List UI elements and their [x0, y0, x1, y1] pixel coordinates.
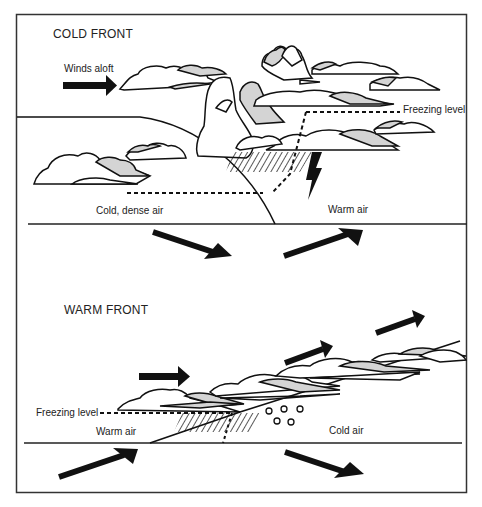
warm-front-freezing-level-label: Freezing level [36, 408, 98, 418]
precipitation-hatch [174, 413, 260, 432]
warm-front-panel [24, 310, 466, 478]
winds-aloft-arrow-icon [139, 366, 190, 387]
winds-aloft-label: Winds aloft [64, 64, 113, 74]
cold-front-panel [17, 46, 467, 259]
warm-front-warm-air-label: Warm air [96, 427, 136, 437]
weather-fronts-diagram [0, 0, 482, 507]
precipitation-hatch [226, 152, 312, 172]
cloud-icon [34, 143, 186, 184]
winds-aloft-arrow-icon [63, 75, 117, 96]
wind-arrow-icon [284, 228, 363, 256]
lightning-bolt-icon [306, 152, 322, 200]
wind-arrow-icon [376, 310, 425, 333]
cold-front-warm-air-label: Warm air [328, 205, 368, 215]
ice-pellets-icon [266, 406, 303, 425]
wind-arrow-icon [153, 232, 232, 259]
cold-front-title: COLD FRONT [53, 28, 133, 40]
cold-dense-air-label: Cold, dense air [96, 206, 163, 216]
wind-arrow-icon [59, 448, 138, 477]
wind-arrow-icon [285, 452, 364, 478]
warm-front-cold-air-label: Cold air [329, 426, 363, 436]
cloud-icon [236, 121, 434, 150]
warm-front-title: WARM FRONT [64, 304, 148, 316]
cold-front-freezing-level-label: Freezing level [403, 105, 465, 115]
